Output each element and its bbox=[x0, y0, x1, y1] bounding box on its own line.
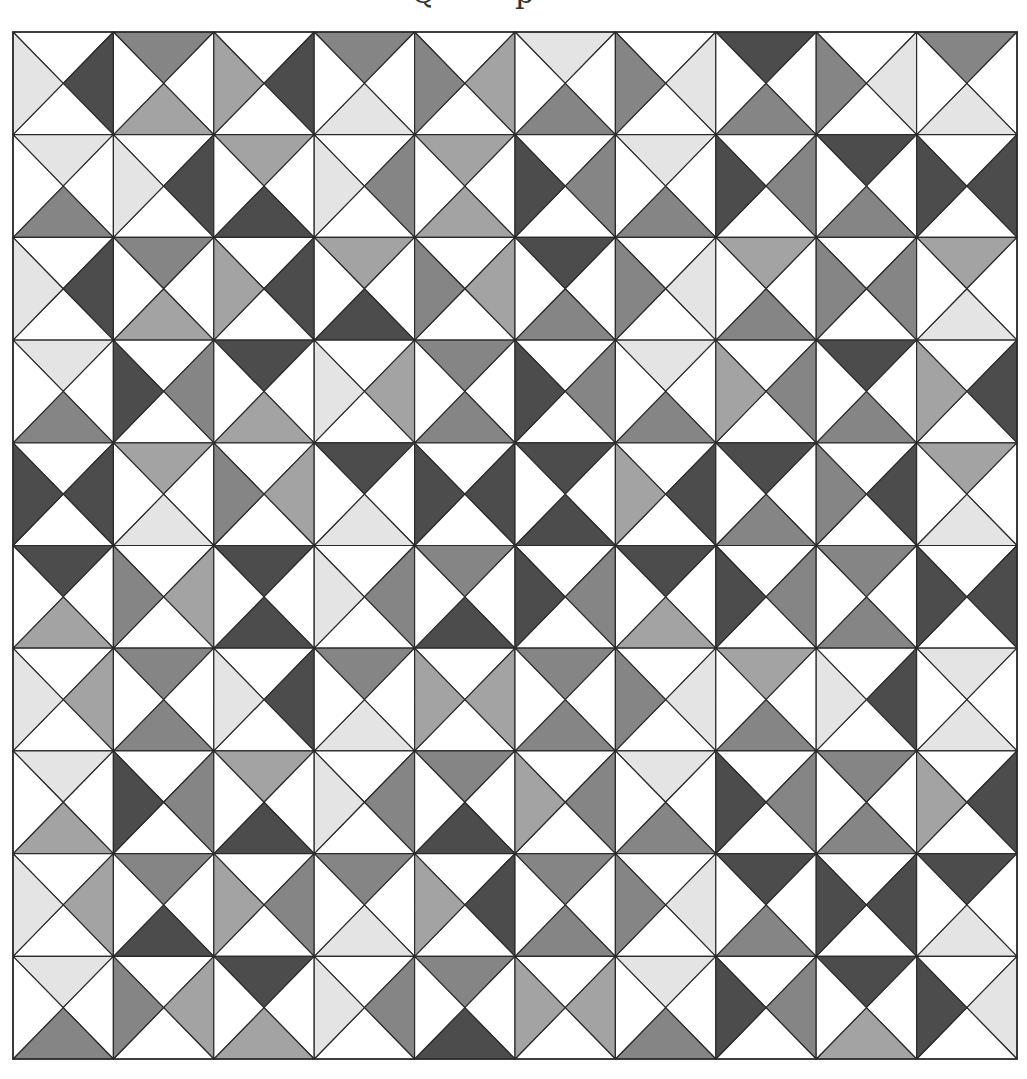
quilt-cell-r3-c6 bbox=[515, 237, 615, 340]
quilt-cell-r10-c9 bbox=[816, 956, 916, 1059]
quilt-cell-r4-c2 bbox=[113, 340, 213, 443]
quilt-cell-r5-c3 bbox=[214, 443, 314, 546]
quilt-cell-r9-c8 bbox=[716, 854, 816, 957]
quilt-cell-r7-c1 bbox=[13, 648, 113, 751]
quilt-cell-r5-c2 bbox=[113, 443, 213, 546]
triangle-quilt-grid bbox=[13, 32, 1017, 1059]
quilt-cell-r3-c5 bbox=[415, 237, 515, 340]
quilt-cell-r6-c8 bbox=[716, 546, 816, 649]
quilt-cell-r4-c7 bbox=[615, 340, 715, 443]
quilt-cell-r6-c3 bbox=[214, 546, 314, 649]
quilt-cell-r1-c3 bbox=[214, 32, 314, 135]
quilt-cell-r9-c4 bbox=[314, 854, 414, 957]
quilt-cell-r2-c10 bbox=[917, 135, 1017, 238]
quilt-cell-r3-c8 bbox=[716, 237, 816, 340]
clipped-title: Q p bbox=[0, 0, 1027, 14]
quilt-cell-r1-c2 bbox=[113, 32, 213, 135]
quilt-cell-r4-c4 bbox=[314, 340, 414, 443]
quilt-cell-r8-c7 bbox=[615, 751, 715, 854]
quilt-cell-r8-c3 bbox=[214, 751, 314, 854]
quilt-cell-r1-c9 bbox=[816, 32, 916, 135]
quilt-cell-r1-c7 bbox=[615, 32, 715, 135]
quilt-cell-r10-c1 bbox=[13, 956, 113, 1059]
quilt-cell-r9-c7 bbox=[615, 854, 715, 957]
quilt-cell-r6-c7 bbox=[615, 546, 715, 649]
quilt-cell-r6-c10 bbox=[917, 546, 1017, 649]
quilt-cell-r3-c7 bbox=[615, 237, 715, 340]
quilt-cell-r6-c4 bbox=[314, 546, 414, 649]
quilt-cell-r3-c1 bbox=[13, 237, 113, 340]
quilt-cell-r8-c1 bbox=[13, 751, 113, 854]
quilt-cell-r8-c10 bbox=[917, 751, 1017, 854]
quilt-cell-r1-c1 bbox=[13, 32, 113, 135]
quilt-cell-r7-c4 bbox=[314, 648, 414, 751]
quilt-cell-r5-c7 bbox=[615, 443, 715, 546]
quilt-cell-r7-c6 bbox=[515, 648, 615, 751]
quilt-cell-r10-c4 bbox=[314, 956, 414, 1059]
quilt-cell-r5-c5 bbox=[415, 443, 515, 546]
quilt-cell-r9-c6 bbox=[515, 854, 615, 957]
quilt-cell-r7-c9 bbox=[816, 648, 916, 751]
quilt-cell-r10-c6 bbox=[515, 956, 615, 1059]
quilt-cell-r1-c5 bbox=[415, 32, 515, 135]
quilt-cell-r7-c8 bbox=[716, 648, 816, 751]
quilt-cell-r4-c5 bbox=[415, 340, 515, 443]
title-fragment-q: Q bbox=[411, 0, 436, 8]
quilt-cell-r8-c2 bbox=[113, 751, 213, 854]
quilt-cell-r5-c9 bbox=[816, 443, 916, 546]
quilt-cell-r9-c9 bbox=[816, 854, 916, 957]
quilt-cell-r2-c6 bbox=[515, 135, 615, 238]
quilt-cell-r4-c6 bbox=[515, 340, 615, 443]
quilt-cell-r8-c9 bbox=[816, 751, 916, 854]
title-fragment-p: p bbox=[515, 0, 534, 8]
quilt-cell-r5-c4 bbox=[314, 443, 414, 546]
quilt-cell-r10-c7 bbox=[615, 956, 715, 1059]
quilt-cell-r6-c2 bbox=[113, 546, 213, 649]
quilt-cell-r2-c1 bbox=[13, 135, 113, 238]
quilt-cell-r1-c8 bbox=[716, 32, 816, 135]
quilt-cell-r2-c7 bbox=[615, 135, 715, 238]
quilt-cell-r5-c6 bbox=[515, 443, 615, 546]
quilt-cell-r5-c10 bbox=[917, 443, 1017, 546]
quilt-cell-r4-c9 bbox=[816, 340, 916, 443]
quilt-cell-r9-c1 bbox=[13, 854, 113, 957]
quilt-cell-r3-c3 bbox=[214, 237, 314, 340]
quilt-cell-r10-c10 bbox=[917, 956, 1017, 1059]
quilt-cell-r1-c4 bbox=[314, 32, 414, 135]
quilt-cell-r7-c5 bbox=[415, 648, 515, 751]
quilt-cell-r6-c5 bbox=[415, 546, 515, 649]
quilt-cell-r4-c3 bbox=[214, 340, 314, 443]
quilt-cell-r2-c5 bbox=[415, 135, 515, 238]
quilt-cell-r3-c2 bbox=[113, 237, 213, 340]
quilt-cell-r5-c8 bbox=[716, 443, 816, 546]
quilt-cell-r10-c8 bbox=[716, 956, 816, 1059]
quilt-cell-r9-c10 bbox=[917, 854, 1017, 957]
quilt-cell-r2-c8 bbox=[716, 135, 816, 238]
quilt-cell-r4-c1 bbox=[13, 340, 113, 443]
quilt-cell-r3-c9 bbox=[816, 237, 916, 340]
quilt-cell-r8-c6 bbox=[515, 751, 615, 854]
quilt-cell-r8-c5 bbox=[415, 751, 515, 854]
quilt-cell-r4-c8 bbox=[716, 340, 816, 443]
quilt-cell-r2-c2 bbox=[113, 135, 213, 238]
quilt-cell-r9-c5 bbox=[415, 854, 515, 957]
quilt-cell-r2-c9 bbox=[816, 135, 916, 238]
quilt-cell-r6-c9 bbox=[816, 546, 916, 649]
quilt-cell-r7-c2 bbox=[113, 648, 213, 751]
quilt-cell-r7-c10 bbox=[917, 648, 1017, 751]
quilt-cell-r10-c5 bbox=[415, 956, 515, 1059]
quilt-cell-r7-c7 bbox=[615, 648, 715, 751]
quilt-cell-r2-c3 bbox=[214, 135, 314, 238]
quilt-cell-r10-c2 bbox=[113, 956, 213, 1059]
quilt-cell-r8-c8 bbox=[716, 751, 816, 854]
quilt-cell-r3-c4 bbox=[314, 237, 414, 340]
quilt-svg bbox=[13, 32, 1017, 1059]
quilt-cell-r5-c1 bbox=[13, 443, 113, 546]
quilt-cell-r8-c4 bbox=[314, 751, 414, 854]
quilt-cell-r2-c4 bbox=[314, 135, 414, 238]
quilt-cell-r10-c3 bbox=[214, 956, 314, 1059]
quilt-cell-r6-c6 bbox=[515, 546, 615, 649]
quilt-cell-r9-c3 bbox=[214, 854, 314, 957]
quilt-cell-r7-c3 bbox=[214, 648, 314, 751]
quilt-cell-r1-c10 bbox=[917, 32, 1017, 135]
